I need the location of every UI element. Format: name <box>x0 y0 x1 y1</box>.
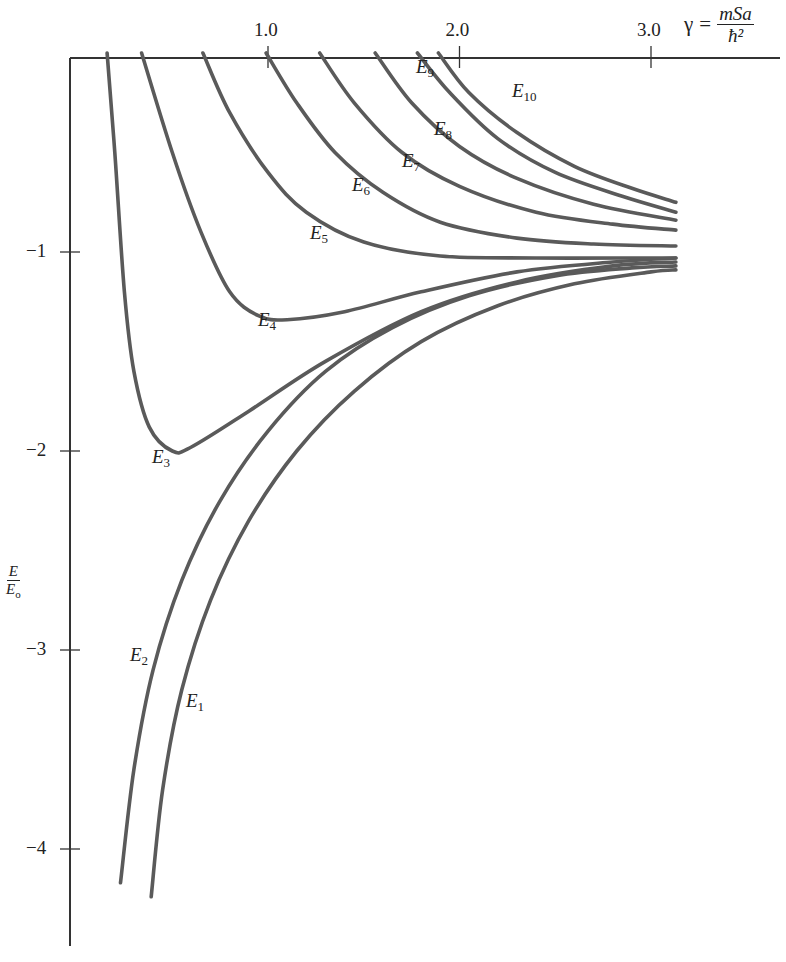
curve-label-e1: E1 <box>186 690 204 715</box>
x-axis-fraction: mSa ħ² <box>717 4 754 45</box>
y-tick-label: −4 <box>26 837 46 859</box>
curve-label-e6: E6 <box>352 174 370 199</box>
x-axis-title: γ = mSa ħ² <box>684 4 754 45</box>
x-tick-label: 1.0 <box>254 19 278 41</box>
curve-e10 <box>438 53 676 202</box>
y-axis-title: E Eo <box>6 564 21 600</box>
curve-e3 <box>107 53 676 453</box>
y-tick-label: −2 <box>26 439 46 461</box>
curve-e7 <box>320 53 676 230</box>
curve-label-e9: E9 <box>416 56 434 81</box>
curve-label-e4: E4 <box>258 309 276 334</box>
curve-label-e7: E7 <box>402 150 420 175</box>
curve-label-e2: E2 <box>130 644 148 669</box>
energy-levels-chart <box>0 0 786 962</box>
curve-label-e10: E10 <box>512 80 537 105</box>
curve-label-e3: E3 <box>152 446 170 471</box>
curve-label-e5: E5 <box>310 222 328 247</box>
curve-label-e8: E8 <box>434 118 452 143</box>
gamma-symbol: γ <box>684 12 693 37</box>
y-tick-label: −3 <box>26 638 46 660</box>
x-axis-numerator: mSa <box>717 4 754 25</box>
y-axis-numerator: E <box>7 564 20 581</box>
x-axis-denominator: ħ² <box>728 25 743 45</box>
curve-e6 <box>266 53 676 246</box>
equals-sign: = <box>699 12 711 37</box>
y-axis-denominator: Eo <box>6 581 21 600</box>
x-tick-label: 2.0 <box>446 19 470 41</box>
curve-e1 <box>151 270 676 897</box>
y-tick-label: −1 <box>26 240 46 262</box>
x-tick-label: 3.0 <box>637 19 661 41</box>
y-axis-denominator-sub: o <box>15 588 21 600</box>
energy-curves <box>107 53 676 897</box>
curve-e5 <box>203 53 676 258</box>
y-axis-denominator-main: E <box>6 581 15 597</box>
